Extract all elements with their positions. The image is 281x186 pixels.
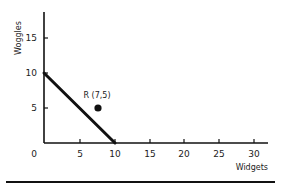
budget-line [44,73,115,143]
y-tick-label-15: 15 [26,33,37,43]
y-tick-label-5: 5 [31,103,37,113]
x-tick-label-20: 20 [178,149,190,159]
x-tick-label-15: 15 [144,149,155,159]
x-tick-label-10: 10 [109,149,121,159]
x-tick-label-0: 0 [31,149,37,159]
point-r [94,104,101,111]
y-tick-label-10: 10 [26,68,38,78]
x-tick-label-30: 30 [248,149,260,159]
x-axis-title: Widgets [236,163,268,172]
y-axis-title: Woggles [14,21,23,55]
point-r-label: R (7,5) [83,91,110,100]
chart: 5 10 15 0 5 10 15 20 25 30 Woggles Widge… [0,0,281,186]
x-tick-label-5: 5 [77,149,83,159]
x-tick-label-25: 25 [213,149,224,159]
